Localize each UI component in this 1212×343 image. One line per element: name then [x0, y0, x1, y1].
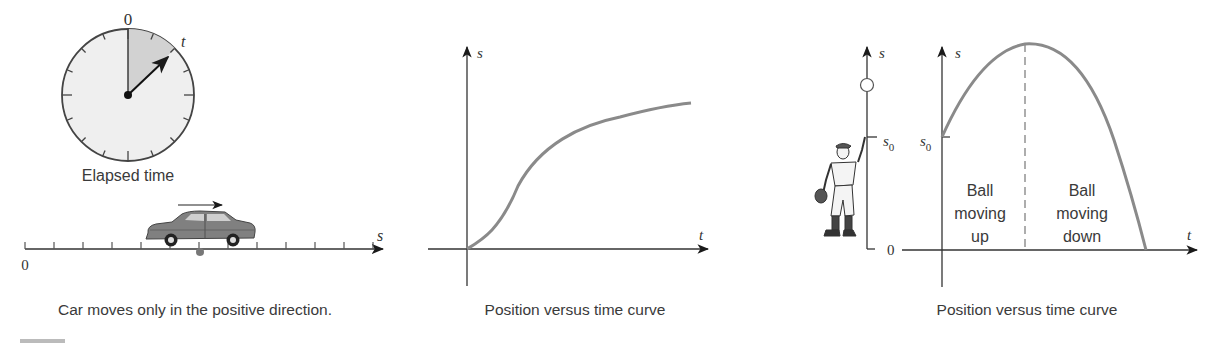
right-s-label: s: [955, 45, 961, 61]
ball-axis-s-label: s: [879, 45, 885, 61]
svg-text:up: up: [971, 228, 989, 245]
region-down-label: Ball moving down: [1056, 182, 1108, 245]
middle-s-label: s: [477, 45, 483, 61]
clock-icon: [62, 29, 194, 161]
clock-caption: Elapsed time: [82, 167, 175, 184]
region-up-label: Ball moving up: [954, 182, 1006, 245]
svg-text:Ball: Ball: [1069, 182, 1096, 199]
ball-icon: [861, 79, 874, 92]
svg-text:down: down: [1063, 228, 1101, 245]
svg-text:Ball: Ball: [967, 182, 994, 199]
number-line-ticks: [25, 242, 373, 249]
ball-axis-zero-label: 0: [887, 242, 895, 258]
middle-panel: s t Position versus time curve: [428, 45, 708, 318]
middle-t-label: t: [699, 227, 704, 243]
svg-text:moving: moving: [954, 205, 1006, 222]
right-caption: Position versus time curve: [937, 301, 1118, 318]
clock-zero-label: 0: [124, 10, 133, 29]
left-caption: Car moves only in the positive direction…: [58, 301, 332, 318]
right-panel: s s0 0 s t s0 Ball moving: [815, 44, 1197, 318]
clock-t-label: t: [181, 33, 186, 50]
position-curve: [467, 103, 691, 249]
svg-text:moving: moving: [1056, 205, 1108, 222]
baseball-player-icon: [815, 137, 865, 236]
right-t-label: t: [1187, 227, 1192, 243]
ball-axis-s0-label: s0: [883, 133, 895, 153]
left-panel: 0 t Elapsed time 0 s Car moves only in t…: [21, 10, 383, 318]
figure-canvas: 0 t Elapsed time 0 s Car moves only in t…: [0, 0, 1212, 343]
number-line-origin: 0: [21, 257, 29, 273]
middle-caption: Position versus time curve: [485, 301, 666, 318]
right-s0-label: s0: [920, 133, 932, 153]
cropped-figure-label: [20, 339, 65, 343]
figure: 0 t Elapsed time 0 s Car moves only in t…: [0, 0, 1212, 343]
number-line-s-label: s: [377, 227, 383, 244]
